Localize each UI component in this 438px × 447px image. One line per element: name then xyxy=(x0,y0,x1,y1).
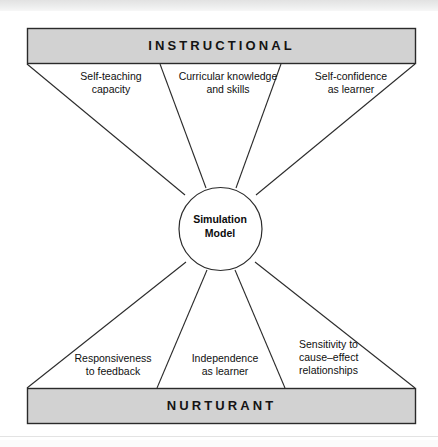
instructional-band-label: INSTRUCTIONAL xyxy=(27,28,416,64)
diagram-canvas: INSTRUCTIONAL NURTURANT Self-teaching ca… xyxy=(0,0,438,447)
effect-label-responsiveness-to-feedback: Responsiveness to feedback xyxy=(54,352,172,378)
simulation-model-label: Simulation Model xyxy=(178,213,262,240)
effect-label-independence-as-learner: Independence as learner xyxy=(170,352,280,378)
effect-label-curricular-knowledge-and-skills: Curricular knowledge and skills xyxy=(166,70,290,96)
effect-label-sensitivity-to-cause-effect-relationships: Sensitivity to cause–effect relationship… xyxy=(299,338,415,378)
effect-label-self-confidence-as-learner: Self-confidence as learner xyxy=(292,70,410,96)
page-bottom-rule xyxy=(0,436,438,437)
nurturant-band-label: NURTURANT xyxy=(27,388,416,424)
effect-label-self-teaching-capacity: Self-teaching capacity xyxy=(52,70,170,96)
page-bottom-edge-band xyxy=(0,440,438,447)
